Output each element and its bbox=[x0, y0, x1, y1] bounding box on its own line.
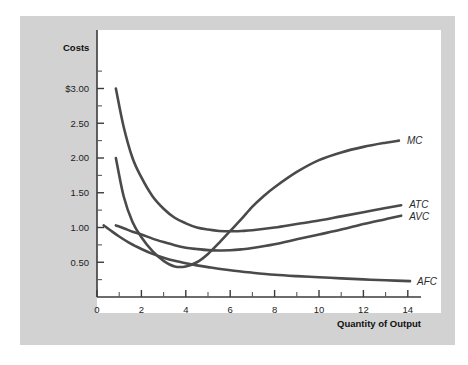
x-tick-labels: 02468101214 bbox=[94, 304, 413, 315]
curves-group bbox=[104, 89, 410, 282]
y-axis-title: Costs bbox=[63, 42, 89, 53]
x-tick-label-4: 8 bbox=[272, 304, 277, 315]
y-tick-label-1: 2.50 bbox=[71, 118, 90, 129]
y-tick-label-2: 2.00 bbox=[71, 152, 90, 163]
x-tick-label-2: 4 bbox=[183, 304, 188, 315]
x-tick-label-1: 2 bbox=[139, 304, 144, 315]
y-tick-label-3: 1.50 bbox=[71, 187, 90, 198]
x-tick-label-3: 6 bbox=[228, 304, 233, 315]
series-label-atc: ATC bbox=[408, 199, 429, 210]
x-tick-label-6: 12 bbox=[358, 304, 369, 315]
y-tick-labels: $3.002.502.001.501.000.50 bbox=[65, 83, 89, 268]
series-labels-group: MCATCAVCAFC bbox=[407, 135, 438, 288]
x-axis-title: Quantity of Output bbox=[337, 318, 422, 329]
y-tick-label-0: $3.00 bbox=[65, 83, 89, 94]
axes-group bbox=[97, 30, 421, 297]
cost-curves-figure: $3.002.502.001.501.000.50 02468101214 MC… bbox=[0, 0, 468, 365]
series-label-mc: MC bbox=[407, 135, 423, 146]
x-tick-label-7: 14 bbox=[403, 304, 414, 315]
x-tick-label-5: 10 bbox=[314, 304, 325, 315]
x-tick-group bbox=[97, 290, 408, 297]
series-label-avc: AVC bbox=[408, 211, 430, 222]
series-label-afc: AFC bbox=[416, 276, 438, 287]
y-tick-group bbox=[97, 71, 104, 280]
curve-atc bbox=[116, 89, 401, 232]
y-tick-label-5: 0.50 bbox=[71, 257, 90, 268]
curve-avc bbox=[116, 216, 401, 251]
curve-afc bbox=[104, 225, 410, 281]
x-tick-label-0: 0 bbox=[94, 304, 99, 315]
y-tick-label-4: 1.00 bbox=[71, 222, 90, 233]
cost-curves-chart: $3.002.502.001.501.000.50 02468101214 MC… bbox=[0, 0, 468, 365]
